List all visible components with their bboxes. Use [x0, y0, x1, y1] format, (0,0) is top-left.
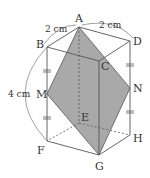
label-H: H — [133, 132, 143, 145]
label-D: D — [133, 35, 142, 48]
label-F: F — [37, 144, 45, 157]
label-N: N — [133, 82, 143, 95]
shaded-section-AMGN — [47, 27, 130, 155]
label-C: C — [101, 60, 109, 73]
label-M: M — [36, 88, 47, 101]
dimension-ab: 2 cm — [45, 24, 68, 34]
label-A: A — [74, 12, 84, 25]
label-G: G — [95, 160, 104, 173]
cube-cross-section-diagram: 2 cm 2 cm 4 cm A B C D E F G H M N — [0, 0, 150, 178]
label-E: E — [81, 111, 89, 124]
dimension-ad: 2 cm — [99, 20, 122, 30]
label-B: B — [36, 38, 44, 51]
dimension-bf: 4 cm — [8, 89, 31, 99]
